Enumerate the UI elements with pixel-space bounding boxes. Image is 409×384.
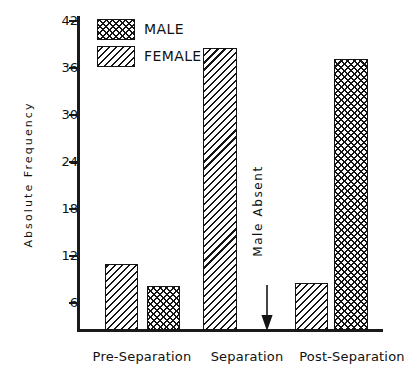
male-absent-label: Male Absent xyxy=(251,151,265,271)
y-axis-title: Absolute Frequency xyxy=(22,75,35,275)
down-arrow-icon xyxy=(259,285,275,337)
y-tick-label-42: 42 xyxy=(46,14,78,27)
y-tick-label-6: 6 xyxy=(46,296,78,309)
bar-pre-separation-male xyxy=(147,286,180,330)
y-tick-label-18: 18 xyxy=(46,202,78,215)
y-tick-label-30: 30 xyxy=(46,108,78,121)
bar-separation-females xyxy=(203,48,237,330)
y-tick-label-24: 24 xyxy=(46,155,78,168)
y-tick-label-12: 12 xyxy=(46,249,78,262)
category-label-pre-separation: Pre-Separation xyxy=(72,349,212,364)
bar-pre-separation-females xyxy=(105,264,138,330)
bar-post-separation-male xyxy=(334,59,368,330)
plot-area xyxy=(77,16,383,330)
category-label-post-separation: Post-Separation xyxy=(282,349,409,364)
y-tick-label-36: 36 xyxy=(46,61,78,74)
bar-post-separation-females xyxy=(295,283,328,330)
x-axis-category-labels: Pre-Separation Separation Post-Separatio… xyxy=(77,349,383,371)
